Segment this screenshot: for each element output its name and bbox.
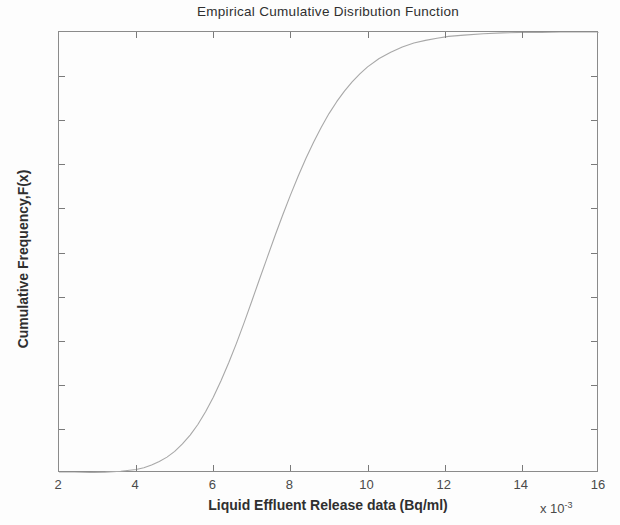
y-tick-mark-right (591, 76, 597, 77)
x-tick-label: 14 (514, 477, 528, 492)
x-tick-label: 12 (436, 477, 450, 492)
chart-title: Empirical Cumulative Disribution Functio… (58, 4, 598, 19)
y-tick-mark-right (591, 429, 597, 430)
y-tick-mark-right (591, 297, 597, 298)
figure-canvas: Empirical Cumulative Disribution Functio… (0, 0, 620, 525)
x-tick-mark (522, 465, 523, 471)
y-tick-mark (59, 208, 65, 209)
x-axis-label: Liquid Effluent Release data (Bq/ml) (58, 497, 598, 513)
y-tick-mark (59, 164, 65, 165)
x-tick-mark (445, 465, 446, 471)
x-axis-exponent-base: x 10 (540, 501, 565, 516)
x-tick-label: 16 (591, 477, 605, 492)
y-tick-mark (59, 341, 65, 342)
x-tick-label: 8 (286, 477, 293, 492)
x-tick-mark-top (522, 32, 523, 38)
x-tick-label: 2 (54, 477, 61, 492)
y-tick-mark (59, 120, 65, 121)
y-tick-mark-right (591, 385, 597, 386)
x-axis-exponent: x 10-3 (540, 500, 573, 516)
x-tick-label: 6 (209, 477, 216, 492)
x-tick-mark (213, 465, 214, 471)
x-tick-mark-top (445, 32, 446, 38)
x-tick-label: 4 (132, 477, 139, 492)
x-tick-mark-top (136, 32, 137, 38)
y-tick-mark-right (591, 341, 597, 342)
y-tick-mark (59, 297, 65, 298)
x-tick-mark-top (213, 32, 214, 38)
plot-area (58, 31, 598, 472)
y-tick-mark (59, 76, 65, 77)
x-tick-mark (136, 465, 137, 471)
x-tick-mark (368, 465, 369, 471)
y-tick-mark-right (591, 208, 597, 209)
cdf-curve (59, 32, 599, 473)
y-tick-mark-right (591, 253, 597, 254)
y-tick-mark (59, 385, 65, 386)
x-tick-mark-top (290, 32, 291, 38)
y-tick-mark-right (591, 164, 597, 165)
x-tick-mark-top (368, 32, 369, 38)
x-tick-mark (290, 465, 291, 471)
y-tick-mark (59, 429, 65, 430)
y-axis-label: Cumulative Frequency,F(x) (15, 99, 31, 419)
y-tick-mark (59, 253, 65, 254)
x-axis-exponent-power: -3 (565, 500, 573, 510)
x-tick-label: 10 (359, 477, 373, 492)
y-tick-mark-right (591, 120, 597, 121)
